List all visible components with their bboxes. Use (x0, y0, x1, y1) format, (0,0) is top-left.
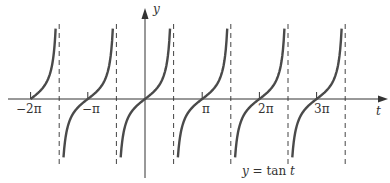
tick-label-3pi: 3π (314, 102, 330, 116)
tick-label-pi: π (202, 102, 210, 116)
y-axis-label: y (153, 2, 160, 16)
tick-label-neg-2pi: −2π (16, 102, 42, 116)
chart-caption: y = tan t (242, 164, 295, 178)
tangent-plot (0, 0, 390, 183)
tangent-branch (31, 29, 56, 99)
tick-label-neg-pi: −π (82, 102, 100, 116)
t-axis-arrow-icon (378, 96, 388, 103)
tick-label-2pi: 2π (258, 102, 274, 116)
tangent-curves (31, 29, 342, 158)
y-axis-arrow-icon (142, 8, 149, 19)
t-axis-label: t (376, 104, 381, 118)
